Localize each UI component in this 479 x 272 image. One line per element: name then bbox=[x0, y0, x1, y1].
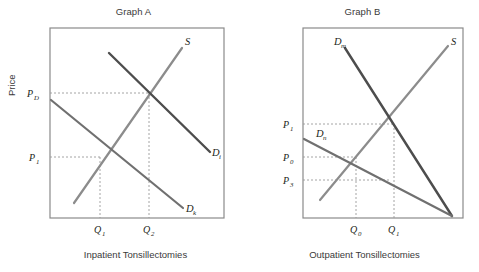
graph-b-xtick-q0: Q bbox=[350, 224, 358, 235]
graph-a-xtick-q1-sub: 1 bbox=[102, 230, 105, 237]
graph-b-demand-managed-curve bbox=[345, 48, 452, 216]
graph-b-supply-curve bbox=[320, 46, 448, 200]
graph-b-ytick-p1: P bbox=[282, 119, 289, 130]
graph-a-demand-insured-curve bbox=[109, 53, 210, 152]
graph-a-ytick-pd: P bbox=[26, 88, 33, 99]
graph-a-label-demand-uninsured-sub: k bbox=[193, 209, 197, 217]
graph-b-ytick-p0-sub: 0 bbox=[290, 158, 294, 165]
graph-b-ytick-p0: P bbox=[282, 152, 289, 163]
graph-a-xtick-q2: Q bbox=[143, 224, 151, 235]
panel-graph-a: Graph A Price Inpatient Tonsillectomies … bbox=[0, 0, 239, 272]
panel-graph-b: Graph B Outpatient Tonsillectomies D m S bbox=[239, 0, 478, 272]
graph-a-plot-frame bbox=[50, 28, 224, 218]
graph-b-ytick-p3: P bbox=[282, 175, 289, 186]
graph-b-plot: D m S D n P 1 P 0 P 3 Q 0 Q 1 bbox=[239, 0, 478, 272]
graph-a-xtick-q1: Q bbox=[94, 224, 102, 235]
graph-a-ytick-p1-sub: 1 bbox=[36, 158, 39, 165]
graph-b-label-supply: S bbox=[451, 36, 457, 47]
graph-b-xtick-q1: Q bbox=[388, 224, 396, 235]
graph-b-label-demand-nonmanaged-sub: n bbox=[323, 134, 327, 142]
two-panel-supply-demand-figure: Graph A Price Inpatient Tonsillectomies … bbox=[0, 0, 479, 272]
graph-a-label-demand-insured-sub: i bbox=[219, 153, 221, 161]
graph-b-demand-nonmanaged-curve bbox=[304, 139, 452, 216]
graph-b-ytick-p3-sub: 3 bbox=[289, 181, 294, 188]
graph-a-xtick-q2-sub: 2 bbox=[151, 230, 155, 237]
graph-a-label-supply: S bbox=[185, 36, 191, 47]
graph-b-ytick-p1-sub: 1 bbox=[290, 125, 293, 132]
graph-a-plot: S D i D k P D P 1 Q 1 Q 2 bbox=[0, 0, 239, 272]
graph-a-ytick-p1: P bbox=[28, 152, 35, 163]
graph-b-xtick-q1-sub: 1 bbox=[396, 230, 399, 237]
graph-b-label-demand-managed-sub: m bbox=[341, 42, 346, 50]
graph-a-demand-uninsured-curve bbox=[51, 100, 183, 208]
graph-a-ytick-pd-sub: D bbox=[33, 94, 39, 101]
graph-b-xtick-q0-sub: 0 bbox=[358, 230, 362, 237]
